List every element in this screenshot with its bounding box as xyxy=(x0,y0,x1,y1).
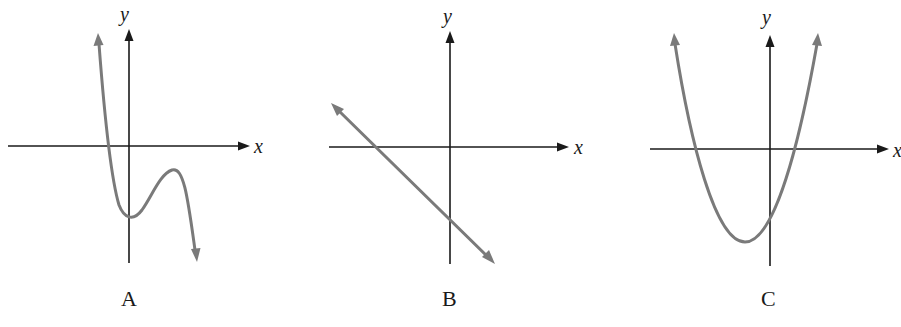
graph-c-y-arrow-icon xyxy=(766,35,775,47)
graph-b-label: B xyxy=(442,286,457,311)
graph-c: y x C xyxy=(650,6,901,311)
graph-b: y x B xyxy=(329,5,583,311)
graph-a-curve-arrow-up-icon xyxy=(94,33,104,46)
graph-c-curve-arrow-right-icon xyxy=(812,33,822,46)
graph-a-label: A xyxy=(121,286,137,311)
graph-c-curve-arrow-left-icon xyxy=(670,33,680,46)
graph-b-x-label: x xyxy=(573,136,583,158)
graph-a-y-label: y xyxy=(118,3,129,26)
graph-a-curve-arrow-down-icon xyxy=(191,248,201,262)
graph-b-y-label: y xyxy=(441,5,452,28)
graph-a-y-arrow-icon xyxy=(125,29,134,41)
graph-b-y-arrow-icon xyxy=(446,31,455,43)
figure-canvas: y x A y x B y x xyxy=(0,0,901,327)
graph-c-x-arrow-icon xyxy=(877,145,889,154)
graph-c-x-label: x xyxy=(892,139,901,161)
graph-b-line xyxy=(338,110,488,257)
graph-a-x-arrow-icon xyxy=(238,142,250,151)
graph-c-y-label: y xyxy=(760,6,771,29)
graph-c-label: C xyxy=(761,286,776,311)
graph-c-parabola xyxy=(675,44,817,242)
graph-a-x-label: x xyxy=(253,135,263,157)
graph-a-curve xyxy=(99,44,195,250)
graph-a: y x A xyxy=(8,3,263,311)
graph-b-x-arrow-icon xyxy=(557,143,569,152)
